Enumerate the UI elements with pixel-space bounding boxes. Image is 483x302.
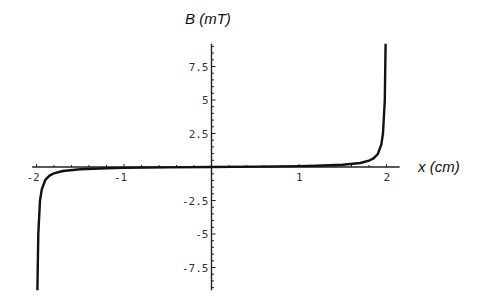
y-tick-label: 7.5: [189, 61, 209, 74]
y-tick-label: 5: [202, 94, 209, 107]
y-tick-label: 2.5: [189, 128, 209, 141]
y-axis-title: B (mT): [185, 10, 231, 27]
y-tick-label: -5: [195, 228, 208, 241]
x-tick-label: -2: [27, 171, 40, 184]
x-tick-label: -1: [114, 171, 127, 184]
y-tick-label: -7.5: [182, 262, 209, 275]
field-plot: -2-1127.552.5-2.5-5-7.5 B (mT) x (cm): [0, 0, 483, 302]
x-axis-title: x (cm): [417, 158, 460, 175]
x-tick-label: 1: [296, 171, 303, 184]
y-tick-label: -2.5: [182, 195, 209, 208]
x-tick-label: 2: [384, 171, 391, 184]
